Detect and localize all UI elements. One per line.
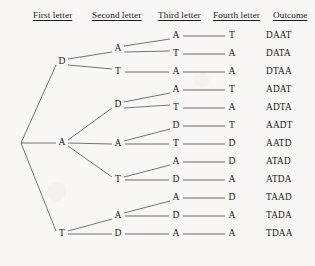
outcome-label-2: DTAA xyxy=(266,66,292,76)
node-second-letter-6: D xyxy=(115,227,122,238)
outcome-label-10: TADA xyxy=(266,210,292,220)
node-fourth-letter-9: D xyxy=(229,191,236,202)
node-second-letter-3: A xyxy=(115,137,122,148)
node-third-letter-10: D xyxy=(173,209,180,220)
node-first-letter-2: T xyxy=(59,227,65,238)
edge-second-to-third-7 xyxy=(124,165,170,177)
node-third-letter-8: D xyxy=(173,173,180,184)
outcome-label-8: ATDA xyxy=(266,174,292,184)
node-second-letter-1: T xyxy=(115,65,121,76)
node-third-letter-0: A xyxy=(173,29,180,40)
edge-first-to-second-5 xyxy=(68,219,112,231)
tree-edges xyxy=(21,36,225,234)
node-third-letter-5: D xyxy=(173,119,180,130)
outcome-label-11: TDAA xyxy=(266,228,293,238)
outcome-label-4: ADTA xyxy=(266,102,292,112)
outcome-label-1: DATA xyxy=(266,48,291,58)
node-fourth-letter-7: D xyxy=(229,155,236,166)
node-third-letter-2: A xyxy=(173,65,180,76)
edge-first-to-second-4 xyxy=(68,146,112,177)
node-fourth-letter-3: T xyxy=(229,83,235,94)
tree-graphic: DATATDATADATTAAAATTADTTDADDAADDAAA DAATD… xyxy=(0,0,315,266)
outcome-labels: DAATDATADTAAADATADTAAADTAATDATADATDATAAD… xyxy=(266,30,293,238)
edge-second-to-third-5 xyxy=(124,129,170,141)
edge-first-to-second-0 xyxy=(68,52,112,59)
node-fourth-letter-4: A xyxy=(229,101,236,112)
edge-root-to-first-0 xyxy=(21,65,56,143)
edge-first-to-second-2 xyxy=(68,108,112,140)
node-second-letter-2: D xyxy=(115,98,122,109)
node-third-letter-11: A xyxy=(173,227,180,238)
edge-second-to-third-9 xyxy=(124,201,170,213)
outcome-label-7: ATAD xyxy=(266,156,291,166)
outcome-label-3: ADAT xyxy=(266,84,292,94)
node-second-letter-4: T xyxy=(115,173,121,184)
outcome-label-9: TAAD xyxy=(266,192,292,202)
edge-second-to-third-1 xyxy=(124,51,170,52)
edge-root-to-first-2 xyxy=(21,143,56,231)
node-second-letter-5: A xyxy=(115,209,122,220)
node-fourth-letter-1: A xyxy=(229,47,236,58)
outcome-label-6: AATD xyxy=(266,138,292,148)
node-fourth-letter-5: T xyxy=(229,119,235,130)
node-first-letter-0: D xyxy=(59,55,66,66)
edge-second-to-third-0 xyxy=(124,39,170,46)
node-third-letter-1: T xyxy=(173,47,179,58)
node-third-letter-7: A xyxy=(173,155,180,166)
node-fourth-letter-2: A xyxy=(229,65,236,76)
node-second-letter-0: A xyxy=(115,42,122,53)
outcome-label-0: DAAT xyxy=(266,30,292,40)
outcome-label-5: AADT xyxy=(266,120,293,130)
node-fourth-letter-0: T xyxy=(229,29,235,40)
edge-first-to-second-3 xyxy=(68,143,112,144)
edge-second-to-third-4 xyxy=(124,105,170,108)
node-fourth-letter-6: D xyxy=(229,137,236,148)
node-third-letter-4: T xyxy=(173,101,179,112)
tree-diagram-page: First letter Second letter Third letter … xyxy=(0,0,315,266)
node-third-letter-9: A xyxy=(173,191,180,202)
node-third-letter-3: A xyxy=(173,83,180,94)
node-fourth-letter-8: A xyxy=(229,173,236,184)
node-third-letter-6: T xyxy=(173,137,179,148)
node-fourth-letter-11: A xyxy=(229,227,236,238)
node-fourth-letter-10: A xyxy=(229,209,236,220)
edge-second-to-third-3 xyxy=(124,93,170,102)
edge-first-to-second-1 xyxy=(68,65,112,69)
node-first-letter-1: A xyxy=(59,136,66,147)
